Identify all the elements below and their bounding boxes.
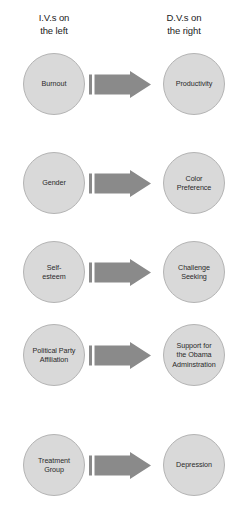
iv-node-label: Self-esteem — [37, 263, 70, 282]
dv-node[interactable]: ColorPreference — [163, 152, 225, 214]
iv-node[interactable]: Gender — [23, 152, 85, 214]
dv-node-label: Productivity — [171, 79, 218, 88]
iv-node[interactable]: Burnout — [23, 53, 85, 115]
iv-node[interactable]: Political PartyAffiliation — [23, 324, 85, 386]
iv-node-label: Gender — [37, 178, 71, 187]
dv-node-label: Depression — [171, 460, 217, 469]
dv-node[interactable]: Support forthe ObamaAdminstration — [163, 324, 225, 386]
iv-node-label: Political PartyAffiliation — [28, 346, 81, 365]
diagram-row: Gender ColorPreference — [0, 152, 238, 216]
diagram-row: Self-esteem ChallengeSeeking — [0, 241, 238, 305]
dv-node[interactable]: ChallengeSeeking — [163, 241, 225, 303]
column-headers: I.V.s onthe left D.V.s onthe right — [0, 0, 238, 48]
iv-node-label: Burnout — [37, 79, 72, 88]
right-arrow-icon — [89, 342, 151, 369]
iv-node-label: TreatmentGroup — [33, 456, 75, 475]
dv-node[interactable]: Depression — [163, 434, 225, 496]
dv-node-label: ColorPreference — [172, 174, 217, 193]
right-arrow-icon — [89, 452, 151, 479]
diagram-row: TreatmentGroup Depression — [0, 434, 238, 498]
right-arrow-icon — [89, 170, 151, 197]
dv-node-label: ChallengeSeeking — [173, 263, 215, 282]
dv-node[interactable]: Productivity — [163, 53, 225, 115]
iv-node[interactable]: Self-esteem — [23, 241, 85, 303]
iv-node[interactable]: TreatmentGroup — [23, 434, 85, 496]
diagram-row: Political PartyAffiliation Support forth… — [0, 324, 238, 388]
dv-node-label: Support forthe ObamaAdminstration — [167, 341, 220, 369]
diagram-row: Burnout Productivity — [0, 53, 238, 117]
iv-column-header: I.V.s onthe left — [11, 12, 97, 37]
iv-dv-relationship-diagram: I.V.s onthe left D.V.s onthe right Burno… — [0, 0, 238, 517]
right-arrow-icon — [89, 259, 151, 286]
dv-column-header: D.V.s onthe right — [141, 12, 227, 37]
right-arrow-icon — [89, 71, 151, 98]
